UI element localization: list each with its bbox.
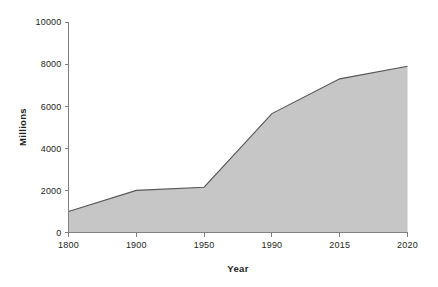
x-tick-label: 1900 (126, 240, 147, 250)
x-tick-label: 1800 (58, 240, 79, 250)
x-tick-label: 1950 (194, 240, 215, 250)
y-tick-label: 6000 (41, 102, 62, 112)
y-axis-title: Millions (17, 108, 28, 146)
y-tick-label: 8000 (41, 59, 62, 69)
x-tick-label: 1990 (261, 240, 282, 250)
y-tick-label: 4000 (41, 144, 62, 154)
y-tick-label: 2000 (41, 186, 62, 196)
x-tick-label: 2015 (329, 240, 350, 250)
x-axis-ticks: 180019001950199020152020 (58, 233, 418, 250)
chart-container: 0200040006000800010000 18001900195019902… (0, 0, 438, 287)
y-tick-label: 10000 (35, 17, 61, 27)
x-axis-title: Year (227, 263, 248, 274)
area-chart: 0200040006000800010000 18001900195019902… (0, 0, 438, 287)
area-series-fill (69, 66, 408, 232)
y-axis-ticks: 0200040006000800010000 (35, 17, 68, 238)
x-tick-label: 2020 (397, 240, 418, 250)
y-tick-label: 0 (56, 228, 61, 238)
